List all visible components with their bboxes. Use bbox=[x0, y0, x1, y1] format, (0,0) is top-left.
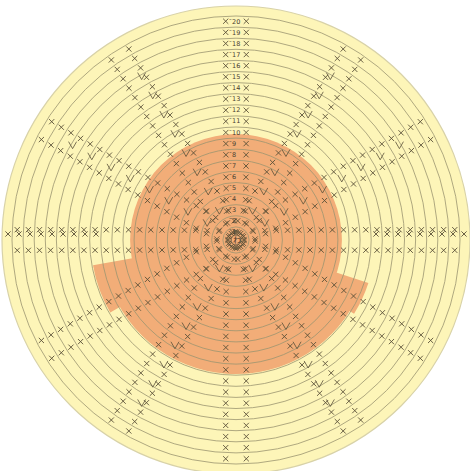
crochet-chart: ̄1̄2̄3̄4̄5̄6̄7̄8̄9̄10̄11̄12̄13̄14̄15̄16̄… bbox=[0, 0, 470, 471]
magic-ring-label: わ bbox=[233, 236, 241, 245]
magic-ring-center: わ bbox=[231, 235, 241, 245]
